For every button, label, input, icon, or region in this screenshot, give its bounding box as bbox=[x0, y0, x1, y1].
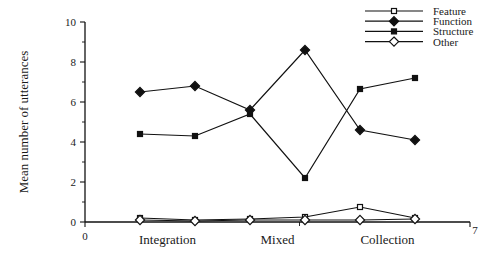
legend-marker-structure bbox=[392, 29, 397, 34]
data-point-function bbox=[190, 81, 199, 90]
data-point-structure bbox=[138, 132, 143, 137]
y-axis-tick-label: 0 bbox=[71, 216, 77, 228]
y-axis-tick-label: 6 bbox=[71, 96, 77, 108]
chart-figure: 024681007IntegrationMixedCollectionMean … bbox=[0, 0, 493, 263]
data-point-function bbox=[135, 87, 144, 96]
data-point-function bbox=[410, 135, 419, 144]
data-point-other bbox=[190, 216, 199, 225]
line-chart-canvas: 024681007IntegrationMixedCollectionMean … bbox=[0, 0, 493, 263]
data-point-other bbox=[135, 215, 144, 224]
x-axis-tick-label: 7 bbox=[472, 224, 478, 236]
y-axis-tick-label: 8 bbox=[71, 56, 77, 68]
legend-marker-other bbox=[389, 37, 398, 46]
data-point-function bbox=[355, 125, 364, 134]
data-point-structure bbox=[193, 134, 198, 139]
x-axis-tick-label: 0 bbox=[82, 230, 88, 242]
legend-marker-feature bbox=[392, 9, 397, 14]
y-axis-title: Mean number of utterances bbox=[16, 51, 31, 194]
y-axis-tick-label: 2 bbox=[71, 176, 77, 188]
series-line-structure bbox=[140, 78, 415, 178]
data-point-structure bbox=[358, 87, 363, 92]
legend-marker-function bbox=[389, 17, 398, 26]
data-point-structure bbox=[303, 176, 308, 181]
y-axis-tick-label: 4 bbox=[71, 136, 77, 148]
data-point-other bbox=[355, 215, 364, 224]
data-point-feature bbox=[358, 205, 363, 210]
series-line-function bbox=[140, 50, 415, 140]
x-axis-category-label: Collection bbox=[360, 232, 415, 247]
y-axis-tick-label: 10 bbox=[65, 16, 77, 28]
data-point-structure bbox=[248, 112, 253, 117]
series-line-feature bbox=[140, 207, 415, 220]
x-axis-category-label: Integration bbox=[139, 232, 197, 247]
legend-label-other: Other bbox=[433, 36, 458, 48]
data-point-other bbox=[245, 215, 254, 224]
x-axis-category-label: Mixed bbox=[261, 232, 295, 247]
data-point-structure bbox=[413, 76, 418, 81]
